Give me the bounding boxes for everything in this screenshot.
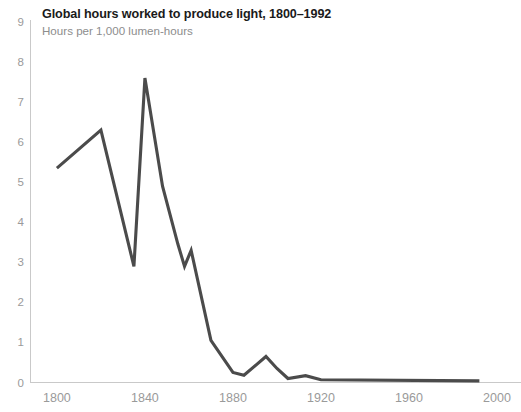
y-tick-label: 4 bbox=[18, 216, 25, 228]
x-axis: 180018401880192019602000 bbox=[31, 383, 521, 406]
line-chart-svg: 0123456789 180018401880192019602000 bbox=[0, 0, 521, 412]
y-tick-label: 8 bbox=[18, 56, 24, 68]
x-tick-label: 1960 bbox=[395, 391, 423, 405]
x-tick-label: 1840 bbox=[131, 391, 159, 405]
y-tick-label: 6 bbox=[18, 136, 24, 148]
x-tick-label: 1920 bbox=[307, 391, 335, 405]
y-tick-label: 5 bbox=[18, 176, 24, 188]
y-tick-label: 3 bbox=[18, 256, 24, 268]
x-tick-label: 1880 bbox=[219, 391, 247, 405]
y-tick-label: 7 bbox=[18, 96, 24, 108]
x-tick-label: 1800 bbox=[43, 391, 71, 405]
y-tick-label: 0 bbox=[18, 377, 24, 389]
chart-container: Global hours worked to produce light, 18… bbox=[0, 0, 521, 412]
x-tick-label: 2000 bbox=[483, 391, 511, 405]
y-axis: 0123456789 bbox=[18, 16, 31, 389]
y-tick-label: 1 bbox=[18, 336, 24, 348]
data-line bbox=[57, 78, 479, 381]
y-tick-label: 2 bbox=[18, 296, 24, 308]
data-series-group bbox=[57, 78, 479, 381]
y-tick-label: 9 bbox=[18, 16, 24, 28]
